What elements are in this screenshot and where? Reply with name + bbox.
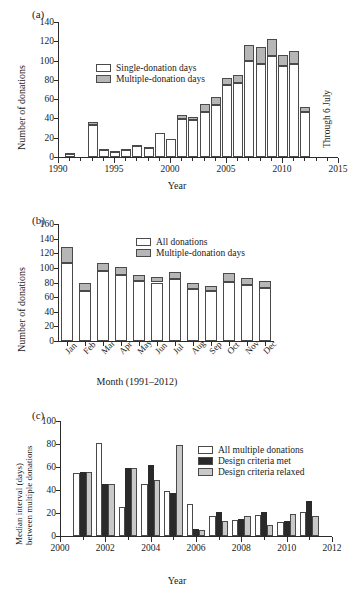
table-row <box>88 122 98 125</box>
panel-a-xtick <box>148 158 149 161</box>
panel-c-ytick <box>56 513 60 514</box>
legend-swatch-all-donations <box>136 238 151 246</box>
table-row <box>241 285 253 341</box>
panel-c-xtick-label: 2004 <box>135 544 167 553</box>
panel-c-xtick-label: 2006 <box>180 544 212 553</box>
panel-a-xtick <box>103 158 104 161</box>
panel-a-ytick <box>54 61 58 62</box>
table-row <box>133 281 145 341</box>
panel-a-xtick <box>92 158 93 161</box>
panel-a-ytick-label: 20 <box>24 134 54 142</box>
table-row <box>256 47 266 64</box>
table-row <box>241 278 253 285</box>
table-row <box>290 514 296 536</box>
table-row <box>61 247 73 263</box>
table-row <box>110 151 120 153</box>
table-row <box>65 153 75 155</box>
table-row <box>115 275 127 341</box>
table-row <box>312 516 318 536</box>
panel-a-xtick <box>125 158 126 161</box>
panel-c-xtick <box>219 537 220 540</box>
table-row <box>188 120 198 157</box>
table-row <box>267 39 277 55</box>
panel-b-ytick-label: 40 <box>24 308 54 316</box>
table-row <box>244 516 250 536</box>
table-row <box>259 281 271 288</box>
panel-c-xtick <box>151 537 152 542</box>
panel-b-xtick-label-oct: Oct <box>225 340 241 356</box>
panel-a-y-axis <box>58 22 59 158</box>
panel-c-ytick-label: 20 <box>28 509 56 517</box>
panel-c-ytick-label: 0 <box>28 532 56 540</box>
legend-swatch-all-multiple-donations <box>198 446 213 454</box>
panel-a-ytick-label: 60 <box>24 95 54 103</box>
panel-c-xtick <box>309 537 310 540</box>
panel-b-legend: All donations Multiple-donation days <box>136 236 245 258</box>
table-row <box>177 115 187 120</box>
panel-a-xtick <box>316 158 317 161</box>
table-row <box>267 56 277 157</box>
table-row <box>97 263 109 270</box>
panel-b-ytick-label: 80 <box>24 279 54 287</box>
legend-swatch-single-donation-days <box>96 64 111 72</box>
panel-c-xtick-label: 2008 <box>225 544 257 553</box>
panel-a-plot-area: 0204060801001201401990199520002005201020… <box>58 22 338 158</box>
table-row <box>131 468 137 536</box>
panel-c-xtick <box>173 537 174 540</box>
legend-item-all-multiple-donations: All multiple donations <box>198 444 305 455</box>
table-row <box>200 104 210 112</box>
legend-label-design-criteria-met: Design criteria met <box>218 456 291 466</box>
panel-c-ytick-label: 40 <box>28 486 56 494</box>
legend-label-all-multiple-donations: All multiple donations <box>218 445 304 455</box>
panel-b-ytick-label: 100 <box>24 264 54 272</box>
legend-item-design-criteria-relaxed: Design criteria relaxed <box>198 466 305 477</box>
panel-a-xtick <box>271 158 272 161</box>
panel-a-xtick <box>248 158 249 161</box>
table-row <box>278 66 288 157</box>
table-row <box>211 105 221 157</box>
table-row <box>233 83 243 157</box>
panel-a-xtick <box>304 158 305 161</box>
table-row <box>176 445 182 536</box>
table-row <box>205 291 217 341</box>
table-row <box>289 64 299 157</box>
panel-b-xtick-label-jun: Jun <box>153 340 169 356</box>
panel-b-ytick-label: 60 <box>24 293 54 301</box>
panel-c-x-axis-label: Year <box>0 575 354 586</box>
table-row <box>154 480 160 536</box>
panel-a-xtick <box>226 158 227 163</box>
panel-c-xtick <box>332 537 333 542</box>
panel-c-xtick-label: 2012 <box>316 544 348 553</box>
panel-a-xtick-label: 2000 <box>154 165 186 174</box>
panel-a-xtick <box>192 158 193 161</box>
table-row <box>88 125 98 157</box>
legend-item-all-donations: All donations <box>136 236 245 247</box>
table-row <box>223 273 235 282</box>
panel-a-xtick <box>293 158 294 161</box>
panel-a-annotation-through-6-july: Through 6 July <box>322 90 332 148</box>
table-row <box>244 45 254 60</box>
panel-a-ytick <box>54 99 58 100</box>
legend-swatch-multiple-donation-days <box>96 75 111 83</box>
legend-item-multiple-donation-days: Multiple-donation days <box>96 73 205 84</box>
panel-b-ytick <box>54 297 58 298</box>
table-row <box>300 112 310 157</box>
table-row <box>205 286 217 290</box>
panel-a-xtick <box>80 158 81 161</box>
panel-a-ytick-label: 80 <box>24 76 54 84</box>
table-row <box>278 55 288 67</box>
panel-c-xtick <box>60 537 61 542</box>
table-row <box>121 149 131 151</box>
table-row <box>79 291 91 341</box>
table-row <box>155 133 165 157</box>
table-row <box>133 275 145 281</box>
panel-c-ytick <box>56 444 60 445</box>
legend-label-multiple-donation-days-b: Multiple-donation days <box>156 248 245 258</box>
panel-a-ytick <box>54 41 58 42</box>
panel-b: (b) Number of donations 0204060801001201… <box>0 200 354 395</box>
legend-item-single-donation-days: Single-donation days <box>96 62 205 73</box>
panel-b-ytick-label: 120 <box>24 249 54 257</box>
legend-label-design-criteria-relaxed: Design criteria relaxed <box>218 467 305 477</box>
table-row <box>86 472 92 536</box>
panel-c-ytick-label: 80 <box>28 440 56 448</box>
